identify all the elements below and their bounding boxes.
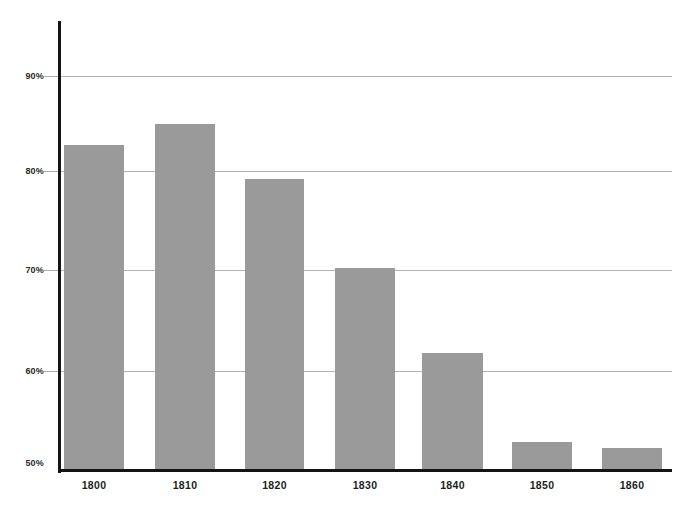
y-tick-label-90: 90%	[8, 71, 44, 81]
bar-1820[interactable]	[245, 179, 304, 470]
x-tick-label-1830: 1830	[335, 479, 395, 491]
y-tick-label-80: 80%	[8, 166, 44, 176]
x-tick-label-1810: 1810	[155, 479, 215, 491]
y-tick-label-50: 50%	[8, 458, 44, 468]
tick-stub-90	[44, 76, 58, 77]
y-axis-line	[58, 21, 61, 473]
y-axis-tick-90: 90%	[0, 71, 44, 81]
bar-1810[interactable]	[155, 124, 215, 470]
y-tick-label-70: 70%	[8, 265, 44, 275]
x-tick-label-1860: 1860	[602, 479, 662, 491]
bar-1840[interactable]	[422, 353, 483, 470]
y-axis-tick-70: 70%	[0, 265, 44, 275]
bar-1850[interactable]	[512, 442, 572, 470]
y-axis-tick-80: 80%	[0, 166, 44, 176]
x-tick-label-1820: 1820	[245, 479, 304, 491]
gridline-90	[59, 76, 672, 77]
tick-stub-60	[44, 371, 58, 372]
cropped-title-remnant	[0, 0, 693, 14]
gridline-80	[59, 171, 672, 172]
y-axis-tick-60: 60%	[0, 366, 44, 376]
y-tick-label-60: 60%	[8, 366, 44, 376]
tick-stub-70	[44, 270, 58, 271]
x-axis-line	[58, 469, 672, 472]
bar-1830[interactable]	[335, 268, 395, 470]
bar-1860[interactable]	[602, 448, 662, 470]
y-axis-tick-50: 50%	[0, 458, 44, 468]
x-tick-label-1840: 1840	[422, 479, 483, 491]
x-tick-label-1800: 1800	[64, 479, 124, 491]
tick-stub-80	[44, 171, 58, 172]
x-tick-label-1850: 1850	[512, 479, 572, 491]
bar-1800[interactable]	[64, 145, 124, 470]
bar-chart: 90% 80% 70% 60% 50% 1800 1810 1820 1830 …	[0, 0, 693, 516]
